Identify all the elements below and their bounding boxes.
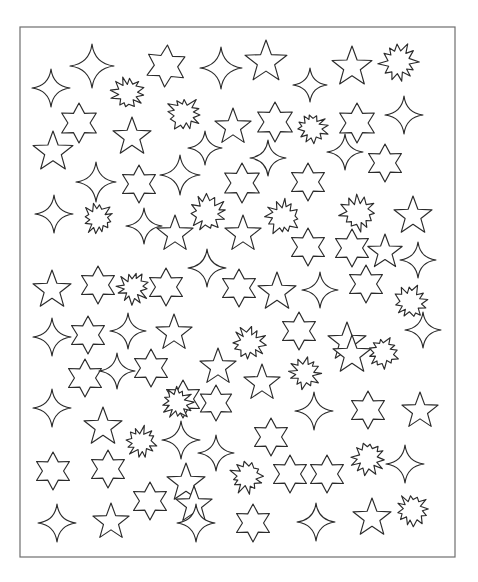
shape-star6: [237, 504, 270, 542]
shape-burst: [168, 100, 200, 129]
shape-sparkle4: [33, 318, 71, 356]
shape-sparkle4: [295, 392, 333, 430]
shape-star5: [245, 40, 287, 80]
star-scatter-canvas: [0, 0, 478, 582]
shape-star5: [33, 270, 71, 306]
shape-star6: [123, 165, 156, 203]
shape-star5: [368, 234, 402, 267]
shape-burst: [126, 425, 157, 457]
shape-star6: [225, 163, 260, 203]
shape-star5: [33, 131, 73, 169]
shape-burst: [378, 44, 419, 81]
shape-star5: [394, 196, 432, 232]
shape-sparkle4: [70, 44, 114, 88]
shape-sparkle4: [32, 69, 70, 107]
shape-star6: [258, 102, 293, 142]
shape-burst: [265, 198, 298, 233]
shape-star5: [84, 407, 122, 443]
shape-star5: [353, 498, 391, 534]
shape-star6: [292, 228, 325, 266]
shape-star6: [37, 452, 70, 490]
shape-sparkle4: [126, 208, 162, 244]
shape-sparkle4: [385, 96, 423, 134]
shape-sparkle4: [200, 47, 242, 89]
shape-sparkle4: [110, 313, 146, 349]
shape-star6: [223, 269, 256, 307]
shape-star5: [200, 348, 236, 382]
shape-burst: [230, 461, 263, 494]
shape-star6: [135, 349, 168, 387]
shape-sparkle4: [33, 389, 71, 427]
shape-star6: [311, 455, 344, 493]
shape-burst: [369, 338, 398, 370]
shape-sparkle4: [188, 131, 222, 165]
shape-star5: [332, 46, 372, 84]
shape-sparkle4: [400, 242, 436, 278]
shape-burst: [351, 443, 384, 475]
shape-star6: [72, 316, 105, 354]
shape-sparkle4: [99, 353, 135, 389]
shape-star5: [167, 463, 205, 499]
shape-sparkle4: [250, 140, 286, 176]
shape-sparkle4: [38, 504, 76, 542]
shape-star5: [113, 117, 151, 153]
shape-star6: [352, 391, 385, 429]
star-sheet: [0, 0, 478, 582]
shape-sparkle4: [188, 249, 226, 287]
shape-star6: [150, 268, 183, 306]
shape-sparkle4: [297, 503, 335, 541]
shape-star6: [200, 385, 231, 421]
shape-burst: [398, 496, 428, 527]
shape-burst: [339, 194, 375, 232]
shape-sparkle4: [160, 155, 200, 195]
shape-star6: [283, 312, 316, 350]
shape-star6: [147, 45, 185, 87]
shape-layer: [32, 40, 441, 542]
shape-sparkle4: [405, 312, 441, 348]
shape-sparkle4: [198, 435, 234, 471]
shape-star6: [62, 103, 97, 143]
shape-burst: [298, 115, 328, 144]
shape-star5: [225, 215, 261, 249]
shape-burst: [116, 273, 148, 305]
shape-star5: [215, 108, 251, 142]
shape-star6: [369, 144, 402, 182]
shape-burst: [85, 203, 112, 233]
shape-star6: [274, 455, 307, 493]
shape-sparkle4: [302, 272, 338, 308]
shape-star6: [69, 359, 102, 397]
shape-star6: [134, 482, 167, 520]
shape-sparkle4: [162, 421, 200, 459]
shape-star5: [93, 503, 129, 537]
shape-sparkle4: [76, 162, 116, 202]
shape-star6: [292, 163, 325, 201]
shape-star5: [258, 272, 296, 308]
shape-sparkle4: [293, 68, 327, 102]
shape-burst: [110, 77, 144, 107]
shape-star6: [92, 450, 125, 488]
shape-sparkle4: [177, 504, 215, 542]
shape-star5: [156, 314, 192, 348]
shape-burst: [191, 193, 225, 229]
shape-star5: [402, 392, 438, 426]
shape-star5: [244, 364, 280, 398]
shape-star6: [336, 229, 369, 267]
shape-star5: [157, 215, 193, 249]
shape-star6: [82, 266, 115, 304]
shape-star6: [350, 265, 383, 303]
shape-star6: [255, 418, 288, 456]
shape-burst: [233, 327, 266, 359]
shape-sparkle4: [35, 195, 73, 233]
shape-sparkle4: [386, 445, 424, 483]
shape-burst: [288, 357, 321, 390]
